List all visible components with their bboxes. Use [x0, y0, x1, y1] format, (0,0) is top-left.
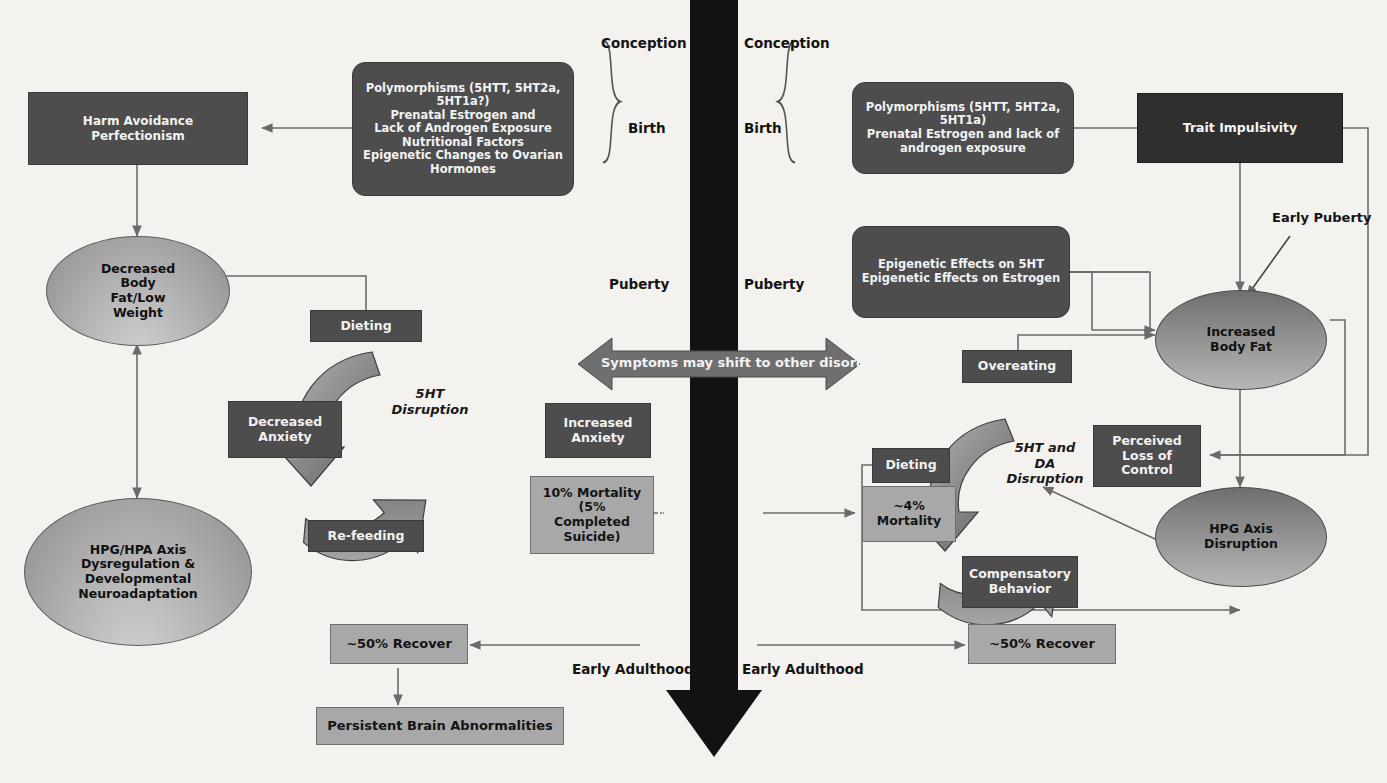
- right-recover-text: ~50% Recover: [989, 636, 1095, 651]
- trait-impulsivity-box: Trait Impulsivity: [1137, 93, 1343, 163]
- right-mortality-box: ~4% Mortality: [862, 486, 956, 542]
- timeline-left-early-adulthood: Early Adulthood: [572, 661, 694, 677]
- symptom-shift-label-text: Symptoms may shift to other disorder: [601, 355, 881, 370]
- early-puberty-label: Early Puberty: [1272, 210, 1372, 225]
- right-mortality-text: ~4% Mortality: [877, 499, 941, 529]
- re-feeding-text: Re-feeding: [328, 529, 405, 544]
- re-feeding-box: Re-feeding: [308, 520, 424, 552]
- left-dieting-text: Dieting: [340, 319, 391, 334]
- right-cycle-label: 5HT and DA Disruption: [990, 440, 1100, 487]
- compensatory-behavior-text: Compensatory Behavior: [969, 567, 1071, 597]
- timeline-left-puberty: Puberty: [609, 276, 669, 292]
- increased-body-fat-text: Increased Body Fat: [1207, 325, 1276, 355]
- diagram-canvas: Polymorphisms (5HTT, 5HT2a, 5HT1a?) Pren…: [0, 0, 1387, 783]
- harm-avoidance-text: Harm Avoidance Perfectionism: [83, 114, 193, 142]
- left-cycle-label: 5HT Disruption: [370, 386, 490, 417]
- increased-anxiety-box: Increased Anxiety: [545, 403, 651, 458]
- hpg-hpa-axis-ellipse: HPG/HPA Axis Dysregulation & Development…: [24, 498, 252, 646]
- hpg-axis-disruption-text: HPG Axis Disruption: [1204, 522, 1278, 552]
- timeline-right-early-adulthood-text: Early Adulthood: [742, 661, 864, 677]
- hpg-axis-disruption-ellipse: HPG Axis Disruption: [1155, 487, 1327, 587]
- harm-avoidance-box: Harm Avoidance Perfectionism: [28, 92, 248, 165]
- epigenetic-effects-box: Epigenetic Effects on 5HT Epigenetic Eff…: [852, 226, 1070, 318]
- compensatory-behavior-box: Compensatory Behavior: [962, 556, 1078, 608]
- left-recover-text: ~50% Recover: [346, 636, 452, 651]
- early-puberty-text: Early Puberty: [1272, 210, 1372, 225]
- right-dieting-box: Dieting: [872, 448, 950, 483]
- timeline-left-conception-text: Conception: [601, 35, 687, 51]
- overeating-box: Overeating: [962, 350, 1072, 383]
- decreased-body-fat-ellipse: Decreased Body Fat/Low Weight: [46, 236, 230, 346]
- timeline-right-conception-text: Conception: [744, 35, 830, 51]
- timeline-right-birth: Birth: [744, 120, 782, 136]
- right-dieting-text: Dieting: [885, 458, 936, 473]
- decreased-anxiety-box: Decreased Anxiety: [228, 401, 342, 458]
- timeline-left-puberty-text: Puberty: [609, 276, 669, 292]
- left-risk-factors-text: Polymorphisms (5HTT, 5HT2a, 5HT1a?) Pren…: [361, 82, 565, 177]
- overeating-text: Overeating: [978, 359, 1056, 374]
- timeline-arrow: [666, 0, 762, 757]
- timeline-left-birth-text: Birth: [628, 120, 666, 136]
- right-recover-box: ~50% Recover: [968, 624, 1116, 664]
- decreased-anxiety-text: Decreased Anxiety: [248, 415, 322, 445]
- timeline-right-puberty-text: Puberty: [744, 276, 804, 292]
- persistent-brain-abnormalities-box: Persistent Brain Abnormalities: [316, 707, 564, 745]
- perceived-loss-of-control-text: Perceived Loss of Control: [1112, 434, 1182, 478]
- right-cycle-label-text: 5HT and DA Disruption: [1007, 440, 1084, 486]
- left-mortality-box: 10% Mortality (5% Completed Suicide): [530, 476, 654, 554]
- decreased-body-fat-text: Decreased Body Fat/Low Weight: [101, 262, 175, 321]
- left-risk-factors-box: Polymorphisms (5HTT, 5HT2a, 5HT1a?) Pren…: [352, 62, 574, 196]
- timeline-right-puberty: Puberty: [744, 276, 804, 292]
- right-risk-factors-text: Polymorphisms (5HTT, 5HT2a, 5HT1a) Prena…: [866, 101, 1061, 155]
- epigenetic-effects-text: Epigenetic Effects on 5HT Epigenetic Eff…: [862, 258, 1061, 285]
- increased-body-fat-ellipse: Increased Body Fat: [1155, 290, 1327, 390]
- timeline-right-birth-text: Birth: [744, 120, 782, 136]
- timeline-right-conception: Conception: [744, 35, 830, 51]
- increased-anxiety-text: Increased Anxiety: [564, 416, 633, 446]
- trait-impulsivity-text: Trait Impulsivity: [1183, 121, 1297, 136]
- left-cycle-label-text: 5HT Disruption: [392, 386, 469, 417]
- timeline-left-birth: Birth: [628, 120, 666, 136]
- persistent-brain-abnormalities-text: Persistent Brain Abnormalities: [327, 718, 552, 733]
- perceived-loss-of-control-box: Perceived Loss of Control: [1093, 425, 1201, 487]
- hpg-hpa-axis-text: HPG/HPA Axis Dysregulation & Development…: [78, 543, 198, 602]
- timeline-left-early-adulthood-text: Early Adulthood: [572, 661, 694, 677]
- left-dieting-box: Dieting: [310, 310, 422, 342]
- right-risk-factors-box: Polymorphisms (5HTT, 5HT2a, 5HT1a) Prena…: [852, 82, 1074, 174]
- timeline-right-early-adulthood: Early Adulthood: [742, 661, 864, 677]
- left-mortality-text: 10% Mortality (5% Completed Suicide): [543, 486, 642, 545]
- left-recover-box: ~50% Recover: [330, 624, 468, 664]
- symptom-shift-label: Symptoms may shift to other disorder: [601, 355, 881, 370]
- timeline-left-conception: Conception: [601, 35, 681, 51]
